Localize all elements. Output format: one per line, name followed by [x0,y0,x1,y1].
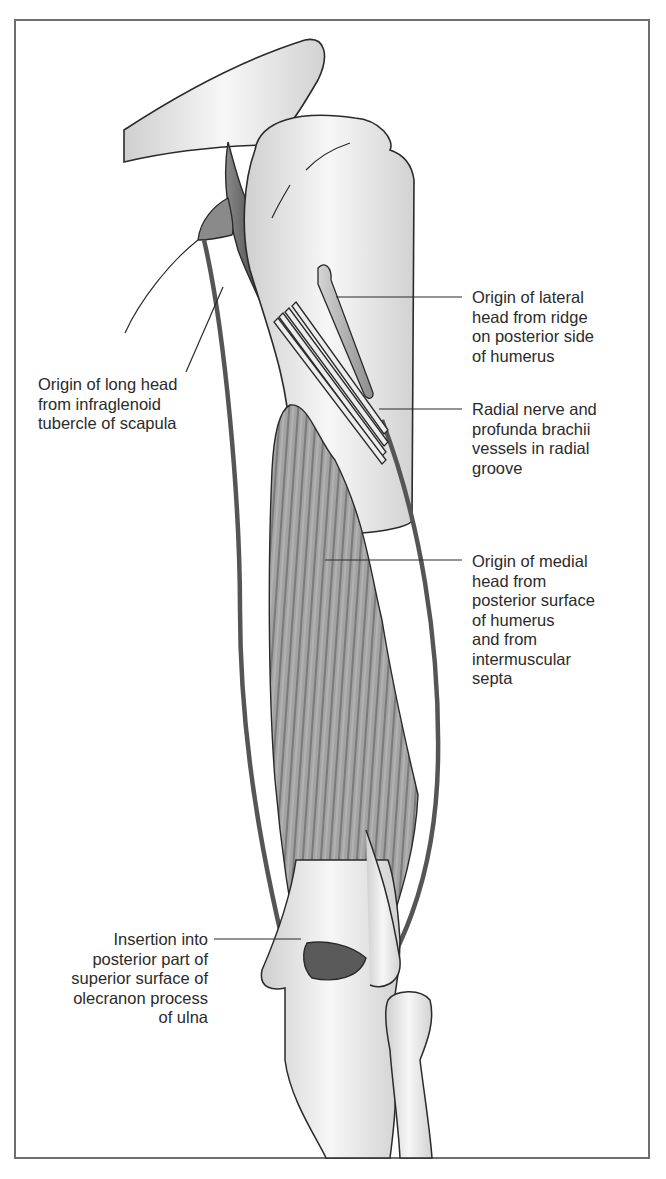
olecranon-ulna [261,830,400,1158]
label-insertion: Insertion into posterior part of superio… [71,930,208,1028]
label-lateral-head-origin: Origin of lateral head from ridge on pos… [472,288,594,366]
label-radial-nerve: Radial nerve and profunda brachii vessel… [472,400,597,478]
label-long-head-origin: Origin of long head from infraglenoid tu… [38,375,177,434]
label-medial-head-origin: Origin of medial head from posterior sur… [472,552,595,689]
